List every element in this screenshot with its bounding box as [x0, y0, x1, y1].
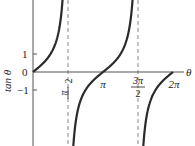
x-label-pi: π — [100, 78, 106, 90]
svg-text:3π: 3π — [132, 75, 144, 86]
x-label-pi-over-2: π 2 — [58, 79, 74, 100]
y-label-0: 0 — [22, 66, 28, 78]
x-label-2pi: 2π — [168, 78, 180, 90]
svg-text:2: 2 — [63, 79, 74, 84]
tan-curve — [33, 0, 173, 146]
svg-text:π: π — [58, 90, 69, 96]
y-label-1: 1 — [22, 48, 28, 60]
x-label-3pi-over-2: 3π 2 — [131, 75, 145, 99]
svg-text:2: 2 — [136, 88, 141, 99]
y-axis-title: tan θ — [1, 69, 13, 92]
tan-chart: 1 0 −1 tan θ θ π 2 π 3π 2 2π — [0, 0, 195, 146]
x-axis-title: θ — [186, 66, 192, 78]
y-label-m1: −1 — [17, 84, 29, 96]
